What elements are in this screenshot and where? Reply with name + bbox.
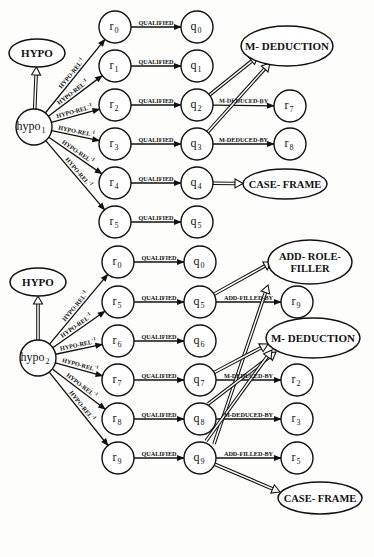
r-node[interactable]: r6 <box>102 325 134 357</box>
root-node-hypo1[interactable]: hypo1 <box>16 109 52 145</box>
class-node-arf-class-2[interactable]: ADD- ROLE-FILLER <box>268 240 352 284</box>
q-node[interactable]: q2 <box>181 89 213 121</box>
svg-text:QUALIFIED: QUALIFIED <box>141 333 177 340</box>
q-node[interactable]: q9 <box>184 442 216 474</box>
svg-text:M-DEDUCED-BY: M-DEDUCED-BY <box>219 136 269 143</box>
edge-label: M-DEDUCED-BY <box>224 372 274 379</box>
svg-text:QUALIFIED: QUALIFIED <box>141 450 177 457</box>
svg-text:M-DEDUCED-BY: M-DEDUCED-BY <box>224 411 274 418</box>
r-node[interactable]: r0 <box>102 246 134 278</box>
svg-text:ADD-FILLED-BY: ADD-FILLED-BY <box>224 294 274 301</box>
hollow-arrowhead-icon <box>34 296 43 304</box>
svg-text:QUALIFIED: QUALIFIED <box>138 19 174 26</box>
diagram-canvas: HYPOM- DEDUCTIONCASE- FRAMEhypo1r0r1r2r3… <box>0 0 374 557</box>
svg-text:HYPO: HYPO <box>21 47 53 59</box>
isa-edge <box>215 464 280 493</box>
edge-label: QUALIFIED <box>138 58 174 65</box>
q-node[interactable]: q3 <box>181 128 213 160</box>
q-node[interactable]: q5 <box>184 286 216 318</box>
hollow-arrowhead-icon <box>32 67 41 75</box>
class-node-mded-class-2[interactable]: M- DEDUCTION <box>266 318 360 358</box>
q-node[interactable]: q0 <box>184 246 216 278</box>
r-node[interactable]: r3 <box>281 403 313 435</box>
svg-text:QUALIFIED: QUALIFIED <box>138 175 174 182</box>
r-node[interactable]: r0 <box>99 11 131 43</box>
svg-text:QUALIFIED: QUALIFIED <box>138 214 174 221</box>
edge-label: QUALIFIED <box>138 214 174 221</box>
q-node[interactable]: q0 <box>181 11 213 43</box>
r-node[interactable]: r5 <box>281 442 313 474</box>
svg-text:ADD- ROLE-: ADD- ROLE- <box>279 251 342 262</box>
hollow-arrowhead-icon <box>271 485 280 493</box>
q-node[interactable]: q5 <box>181 206 213 238</box>
svg-text:QUALIFIED: QUALIFIED <box>138 136 174 143</box>
class-node-cf-class-2[interactable]: CASE- FRAME <box>278 482 362 514</box>
class-node-mded-class-1[interactable]: M- DEDUCTION <box>241 26 333 66</box>
svg-text:FILLER: FILLER <box>290 263 330 274</box>
r-node[interactable]: r3 <box>99 128 131 160</box>
side-relation-edge <box>213 105 274 106</box>
edge-label: QUALIFIED <box>138 136 174 143</box>
root-node-hypo2[interactable]: hypo2 <box>20 340 56 376</box>
isa-edge <box>213 179 243 188</box>
hollow-arrowhead-icon <box>235 179 243 188</box>
edge-label: M-DEDUCED-BY <box>219 97 269 105</box>
svg-text:M-DEDUCED-BY: M-DEDUCED-BY <box>224 372 274 379</box>
edge-label: QUALIFIED <box>141 254 177 261</box>
svg-text:ADD-FILLED-BY: ADD-FILLED-BY <box>224 450 274 457</box>
r-node[interactable]: r5 <box>102 286 134 318</box>
edge-label: M-DEDUCED-BY <box>224 411 274 418</box>
edge-label: QUALIFIED <box>141 372 177 379</box>
q-node[interactable]: q1 <box>181 50 213 82</box>
class-node-hypo-class-2[interactable]: HYPO <box>10 268 66 296</box>
r-node[interactable]: r4 <box>99 167 131 199</box>
r-node[interactable]: r2 <box>99 89 131 121</box>
svg-text:CASE- FRAME: CASE- FRAME <box>284 493 357 504</box>
edge-label: QUALIFIED <box>141 294 177 301</box>
q-node[interactable]: q6 <box>184 325 216 357</box>
edge-label: QUALIFIED <box>138 97 174 104</box>
r-node[interactable]: r9 <box>102 442 134 474</box>
semantic-network-diagram: HYPOM- DEDUCTIONCASE- FRAMEhypo1r0r1r2r3… <box>0 0 374 557</box>
isa-edge <box>206 350 272 441</box>
svg-text:M-DEDUCED-BY: M-DEDUCED-BY <box>219 97 269 105</box>
svg-text:QUALIFIED: QUALIFIED <box>141 372 177 379</box>
isa-edge <box>32 67 41 109</box>
class-node-cf-class-1[interactable]: CASE- FRAME <box>243 169 327 199</box>
svg-text:QUALIFIED: QUALIFIED <box>138 58 174 65</box>
svg-text:M- DEDUCTION: M- DEDUCTION <box>245 40 329 52</box>
r-node[interactable]: r7 <box>102 364 134 396</box>
svg-text:HYPO: HYPO <box>22 276 54 288</box>
edge-label: QUALIFIED <box>138 175 174 182</box>
r-node[interactable]: r2 <box>281 364 313 396</box>
edge-label: QUALIFIED <box>141 450 177 457</box>
svg-text:QUALIFIED: QUALIFIED <box>138 97 174 104</box>
isa-edge <box>209 56 258 95</box>
q-node[interactable]: q7 <box>184 364 216 396</box>
r-node[interactable]: r8 <box>102 403 134 435</box>
svg-text:M- DEDUCTION: M- DEDUCTION <box>271 332 355 344</box>
q-node[interactable]: q4 <box>181 167 213 199</box>
r-node[interactable]: r7 <box>274 90 306 122</box>
r-node[interactable]: r8 <box>274 128 306 160</box>
edge-label: ADD-FILLED-BY <box>224 450 274 457</box>
edge-label: QUALIFIED <box>141 411 177 418</box>
svg-text:QUALIFIED: QUALIFIED <box>141 411 177 418</box>
q-node[interactable]: q8 <box>184 403 216 435</box>
class-node-hypo-class-1[interactable]: HYPO <box>9 39 65 67</box>
edge-label: ADD-FILLED-BY <box>224 294 274 301</box>
svg-text:CASE- FRAME: CASE- FRAME <box>249 179 322 190</box>
edge-label: QUALIFIED <box>141 333 177 340</box>
isa-edge <box>34 296 43 340</box>
edge-label: M-DEDUCED-BY <box>219 136 269 143</box>
edge-label: QUALIFIED <box>138 19 174 26</box>
r-node[interactable]: r1 <box>99 50 131 82</box>
r-node[interactable]: r5 <box>99 206 131 238</box>
svg-text:QUALIFIED: QUALIFIED <box>141 294 177 301</box>
svg-text:QUALIFIED: QUALIFIED <box>141 254 177 261</box>
r-node[interactable]: r9 <box>281 286 313 318</box>
